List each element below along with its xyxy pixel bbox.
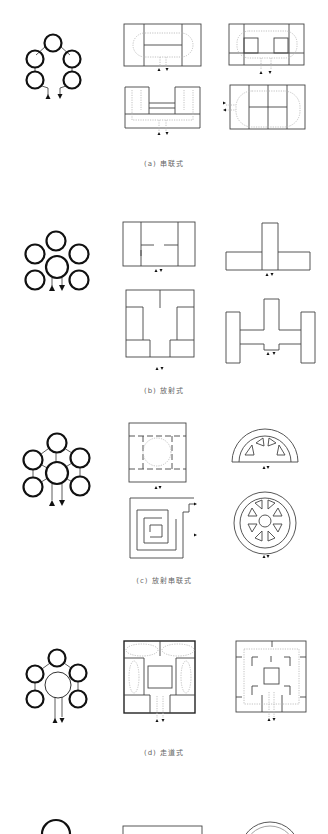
caption-a: (a) 串联式 bbox=[0, 158, 328, 168]
plan-radial-serial-1 bbox=[129, 423, 186, 489]
entry-arrow-icon bbox=[49, 500, 55, 506]
plan-corridor-1 bbox=[124, 641, 195, 722]
section-e-diagram bbox=[0, 790, 328, 834]
plan-corridor-2 bbox=[236, 641, 306, 721]
plan-serial-2 bbox=[229, 24, 304, 74]
bubble-diagram-serial bbox=[27, 35, 81, 100]
exit-arrow-icon bbox=[58, 94, 63, 99]
exit-arrow-icon bbox=[59, 500, 65, 506]
bubble-diagram-radial-serial bbox=[24, 434, 90, 507]
bubble-partial bbox=[42, 820, 70, 834]
plan-radial-serial-2 bbox=[232, 429, 298, 469]
plan-radial-serial-4 bbox=[234, 492, 296, 558]
caption-b: (b) 放射式 bbox=[0, 385, 328, 395]
plan-radial-3 bbox=[126, 290, 194, 370]
plan-partial-1 bbox=[123, 826, 202, 834]
plan-serial-4 bbox=[223, 85, 305, 129]
section-d-corridor: (d) 走道式 bbox=[0, 600, 328, 790]
plan-radial-serial-3 bbox=[130, 498, 197, 558]
plan-serial-1 bbox=[124, 24, 201, 71]
section-a-serial: (a) 串联式 bbox=[0, 0, 328, 190]
plan-radial-1 bbox=[123, 222, 195, 272]
plan-radial-4 bbox=[226, 299, 315, 363]
bubble-diagram-corridor bbox=[27, 650, 87, 724]
entry-arrow-icon bbox=[49, 285, 55, 291]
plan-serial-3 bbox=[125, 87, 200, 135]
caption-d: (d) 走道式 bbox=[0, 747, 328, 757]
exit-arrow-icon bbox=[60, 718, 65, 723]
section-c-radial-serial: (c) 放射串联式 bbox=[0, 400, 328, 600]
plan-partial-2 bbox=[240, 822, 300, 834]
section-e-partial bbox=[0, 790, 328, 834]
bubble-diagram-radial bbox=[26, 232, 89, 292]
section-c-diagram bbox=[0, 400, 328, 600]
section-d-diagram bbox=[0, 600, 328, 790]
section-b-diagram bbox=[0, 190, 328, 400]
section-b-radial: (b) 放射式 bbox=[0, 190, 328, 400]
plan-radial-2 bbox=[226, 223, 310, 276]
entry-arrow-icon bbox=[46, 94, 51, 99]
entry-arrow-icon bbox=[53, 718, 58, 723]
exit-arrow-icon bbox=[59, 285, 65, 291]
caption-c: (c) 放射串联式 bbox=[0, 575, 328, 585]
